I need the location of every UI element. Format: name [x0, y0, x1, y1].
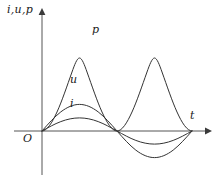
ac-power-waveform-figure: i,u,p t O p u i [0, 0, 214, 179]
waveform-plot [0, 0, 214, 179]
origin-label: O [23, 133, 32, 144]
curve-label-i: i [70, 98, 74, 109]
curve-label-p: p [92, 24, 99, 35]
y-axis [39, 8, 46, 175]
x-axis-label: t [190, 110, 194, 121]
y-axis-label: i,u,p [7, 4, 33, 15]
curve-label-u: u [70, 74, 77, 85]
